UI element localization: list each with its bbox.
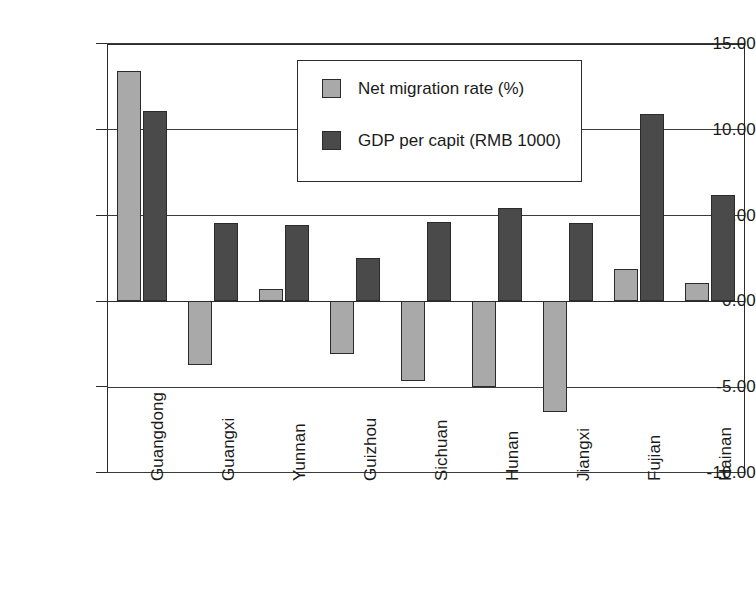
bar-guangdong-series-0 <box>117 71 141 301</box>
y-tick-mark <box>96 386 107 387</box>
x-axis-label-guangxi: Guangxi <box>220 418 237 481</box>
y-tick-mark <box>96 215 107 216</box>
chart-legend: Net migration rate (%) GDP per capit (RM… <box>297 60 582 182</box>
y-tick-mark <box>96 472 107 473</box>
bar-guizhou-series-1 <box>356 258 380 302</box>
bar-jiangxi-series-0 <box>543 301 567 412</box>
bar-hunan-series-1 <box>498 208 522 302</box>
legend-label-series-1: GDP per capit (RMB 1000) <box>358 131 561 150</box>
x-axis-label-yunnan: Yunnan <box>291 423 308 481</box>
y-tick-mark <box>96 301 107 302</box>
x-axis-label-sichuan: Sichuan <box>433 420 450 481</box>
bar-guangxi-series-1 <box>214 223 238 301</box>
grouped-bar-chart: -10.00-5.000.005.0010.0015.00 GuangdongG… <box>0 0 756 596</box>
bar-fujian-series-0 <box>614 269 638 302</box>
y-tick-mark <box>96 43 107 44</box>
x-axis-labels: GuangdongGuangxiYunnanGuizhouSichuanHuna… <box>107 473 745 596</box>
bar-sichuan-series-1 <box>427 222 451 301</box>
bar-hainan-series-0 <box>685 283 709 302</box>
bar-jiangxi-series-1 <box>569 223 593 301</box>
legend-swatch-icon-series-1 <box>322 131 341 150</box>
bar-hainan-series-1 <box>711 195 735 301</box>
x-axis-label-jiangxi: Jiangxi <box>575 428 592 481</box>
bar-fujian-series-1 <box>640 114 664 301</box>
x-axis-label-fujian: Fujian <box>646 435 663 481</box>
legend-item-gdp-per-capita: GDP per capit (RMB 1000) <box>322 131 561 150</box>
legend-item-net-migration-rate: Net migration rate (%) <box>322 79 524 98</box>
x-axis-label-hunan: Hunan <box>504 431 521 481</box>
bar-guangxi-series-0 <box>188 301 212 364</box>
bar-yunnan-series-0 <box>259 289 283 302</box>
x-axis-label-guizhou: Guizhou <box>362 418 379 481</box>
bar-guizhou-series-0 <box>330 301 354 353</box>
legend-label-series-0: Net migration rate (%) <box>358 79 524 98</box>
y-tick-mark <box>96 129 107 130</box>
bar-yunnan-series-1 <box>285 225 309 301</box>
bar-hunan-series-0 <box>472 301 496 387</box>
bar-guangdong-series-1 <box>143 111 167 301</box>
legend-swatch-icon-series-0 <box>322 79 341 98</box>
x-axis-label-guangdong: Guangdong <box>149 392 166 481</box>
x-axis-label-hainan: Hainan <box>717 427 734 481</box>
bar-sichuan-series-0 <box>401 301 425 381</box>
